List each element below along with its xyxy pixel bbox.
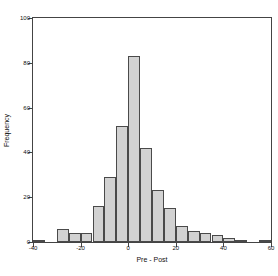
histogram-figure: Frequency 020406080100-40-200204060 Pre … bbox=[0, 0, 278, 276]
histogram-bar bbox=[104, 177, 116, 242]
histogram-bar bbox=[235, 240, 247, 242]
histogram-bar bbox=[164, 208, 176, 242]
y-axis-label-text: Frequency bbox=[4, 113, 11, 146]
y-axis-tick-label: 20 bbox=[23, 194, 30, 200]
y-axis-tick-label: 100 bbox=[20, 15, 30, 21]
plot-area: 020406080100-40-200204060 bbox=[32, 17, 272, 243]
x-axis-tick-label: 0 bbox=[127, 245, 130, 251]
x-axis-tick-label: -20 bbox=[76, 245, 85, 251]
y-axis-tick-label: 40 bbox=[23, 149, 30, 155]
x-axis-label: Pre - Post bbox=[32, 256, 272, 263]
histogram-bar bbox=[57, 229, 69, 242]
histogram-bar bbox=[188, 231, 200, 242]
histogram-bar bbox=[223, 238, 235, 242]
histogram-bar bbox=[116, 126, 128, 242]
histogram-bar bbox=[140, 148, 152, 242]
histogram-bar bbox=[152, 190, 164, 242]
x-axis-tick-label: -40 bbox=[29, 245, 38, 251]
x-axis-tick-label: 40 bbox=[220, 245, 227, 251]
histogram-bar bbox=[81, 233, 93, 242]
y-axis-label: Frequency bbox=[2, 17, 12, 243]
histogram-bar bbox=[69, 233, 81, 242]
histogram-bar bbox=[93, 206, 105, 242]
histogram-bar bbox=[128, 56, 140, 242]
x-axis-tick-label: 20 bbox=[172, 245, 179, 251]
y-axis-tick-label: 60 bbox=[23, 105, 30, 111]
histogram-bar bbox=[212, 235, 224, 242]
histogram-bar bbox=[176, 226, 188, 242]
histogram-bar bbox=[33, 240, 45, 242]
histogram-bar bbox=[200, 233, 212, 242]
x-axis-tick-label: 60 bbox=[268, 245, 275, 251]
histogram-bar bbox=[259, 240, 271, 242]
y-axis-tick-label: 80 bbox=[23, 60, 30, 66]
bars-container bbox=[33, 18, 271, 242]
